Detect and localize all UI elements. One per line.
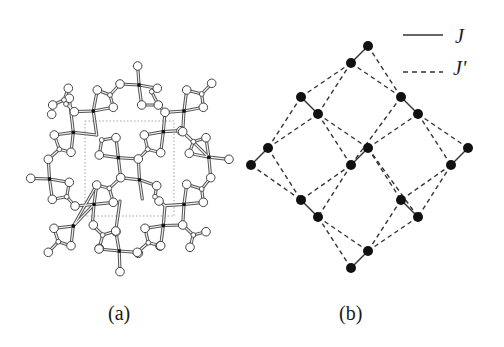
j-prime-bond bbox=[368, 46, 401, 97]
atom bbox=[140, 131, 149, 140]
atom bbox=[70, 107, 79, 116]
lattice-node bbox=[313, 109, 323, 119]
atom bbox=[186, 243, 195, 252]
metal-hub bbox=[182, 109, 186, 113]
crystal-structure-panel bbox=[26, 62, 233, 276]
lattice-node bbox=[346, 263, 356, 273]
small-atom bbox=[199, 92, 204, 97]
atom bbox=[133, 248, 142, 257]
lattice-node bbox=[296, 195, 306, 205]
atom bbox=[112, 133, 121, 142]
small-atom bbox=[99, 138, 104, 143]
metal-hub bbox=[161, 224, 165, 228]
atom bbox=[161, 108, 170, 117]
atom bbox=[207, 79, 216, 88]
small-atom bbox=[56, 239, 61, 244]
atom bbox=[48, 101, 57, 110]
j-prime-bond bbox=[268, 97, 301, 148]
lattice-node bbox=[296, 92, 306, 102]
legend-label-j: J bbox=[455, 25, 464, 48]
lattice-node bbox=[363, 246, 373, 256]
atom bbox=[116, 267, 125, 276]
atom bbox=[154, 101, 163, 110]
metal-hub bbox=[71, 130, 75, 134]
lattice-node bbox=[413, 212, 423, 222]
lattice-node bbox=[313, 212, 323, 222]
atom bbox=[64, 84, 73, 93]
atom bbox=[67, 148, 76, 157]
small-atom bbox=[191, 139, 196, 144]
atom bbox=[182, 86, 191, 95]
j-prime-bond bbox=[318, 114, 368, 148]
atom bbox=[182, 180, 191, 189]
metal-hub bbox=[116, 156, 120, 160]
atom bbox=[89, 221, 98, 230]
j-prime-bond bbox=[268, 148, 301, 200]
j-prime-bond bbox=[368, 148, 418, 217]
atom bbox=[116, 80, 125, 89]
metal-hub bbox=[91, 109, 95, 113]
lattice-node bbox=[446, 160, 456, 170]
metal-hub bbox=[117, 249, 121, 253]
small-atom bbox=[145, 147, 150, 152]
small-atom bbox=[153, 194, 158, 199]
legend-label-j-prime: J' bbox=[453, 57, 466, 80]
atom bbox=[137, 101, 146, 110]
j-prime-bond bbox=[251, 165, 301, 200]
small-atom bbox=[100, 233, 105, 238]
atoms bbox=[26, 62, 233, 276]
atom bbox=[202, 133, 211, 142]
metal-hub bbox=[182, 202, 186, 206]
lattice-node bbox=[363, 41, 373, 51]
lattice-node bbox=[396, 195, 406, 205]
atom bbox=[116, 173, 125, 182]
atom bbox=[133, 62, 142, 71]
caption-a: (a) bbox=[108, 302, 130, 325]
atom bbox=[50, 131, 59, 140]
lattice-node bbox=[263, 143, 273, 153]
j-prime-bond bbox=[418, 114, 468, 148]
j-prime-bond bbox=[318, 114, 351, 165]
lattice-node bbox=[463, 143, 473, 153]
dimer-lattice-panel bbox=[246, 35, 473, 273]
small-atom bbox=[64, 102, 69, 107]
j-prime-bond bbox=[418, 165, 451, 217]
atom bbox=[202, 227, 211, 236]
atom bbox=[185, 149, 194, 158]
j-prime-bond bbox=[418, 114, 451, 165]
metal-hub bbox=[92, 202, 96, 206]
lattice-node bbox=[363, 143, 373, 153]
atom bbox=[225, 155, 234, 164]
atom bbox=[134, 155, 143, 164]
metal-hub bbox=[207, 155, 211, 159]
j-prime-bond bbox=[351, 63, 401, 97]
atom bbox=[141, 224, 150, 233]
atom bbox=[109, 103, 118, 112]
j-prime-bond bbox=[318, 217, 351, 268]
atom bbox=[44, 155, 53, 164]
j-prime-bond bbox=[318, 63, 351, 114]
small-atom bbox=[191, 233, 196, 238]
small-atom bbox=[199, 187, 204, 192]
atom bbox=[71, 202, 80, 211]
metal-hub bbox=[138, 178, 142, 182]
lattice-node bbox=[346, 58, 356, 68]
lattice-node bbox=[413, 109, 423, 119]
j-prime-bond bbox=[351, 97, 401, 165]
atom bbox=[178, 127, 187, 136]
j-prime-bond bbox=[368, 217, 418, 251]
atom bbox=[48, 195, 57, 204]
j-prime-bond bbox=[301, 165, 351, 200]
lattice-node bbox=[346, 160, 356, 170]
atom bbox=[93, 86, 102, 95]
small-atom bbox=[149, 89, 154, 94]
metal-hub bbox=[48, 177, 52, 181]
small-atom bbox=[64, 194, 69, 199]
metal-hub bbox=[137, 83, 141, 87]
atom bbox=[156, 241, 165, 250]
small-atom bbox=[108, 93, 113, 98]
j-bonds bbox=[251, 46, 468, 268]
atom bbox=[111, 227, 120, 236]
atom bbox=[199, 198, 208, 207]
atom bbox=[152, 181, 161, 190]
